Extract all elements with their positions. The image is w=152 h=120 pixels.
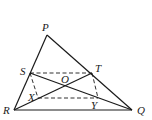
label-X: X [27,91,36,103]
label-R: R [2,104,10,116]
solid-segment-PQ [47,35,132,110]
label-O: O [61,73,69,85]
label-P: P [41,21,49,33]
label-Q: Q [137,104,145,116]
label-S: S [20,65,26,77]
label-T: T [95,62,102,74]
geometry-diagram: P Q R S T O X Y [0,0,152,120]
label-Y: Y [91,99,99,111]
